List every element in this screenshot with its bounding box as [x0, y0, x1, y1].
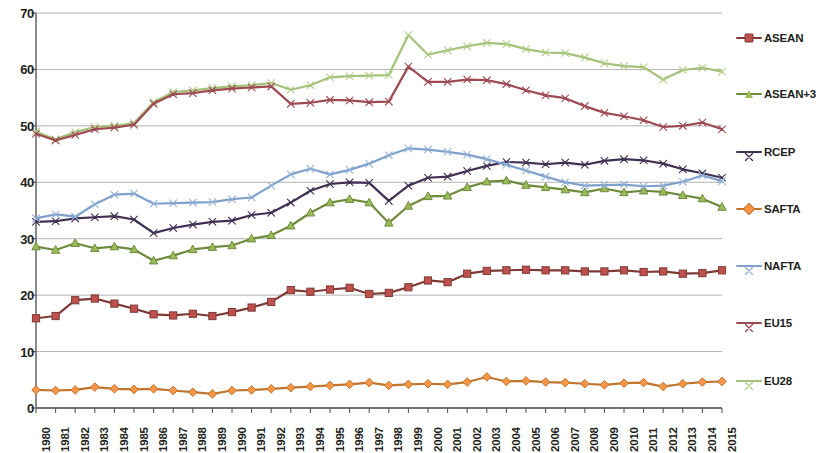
y-axis-tick-label: 20 — [4, 289, 34, 302]
plot-area — [0, 0, 740, 453]
series-safta — [32, 373, 727, 399]
data-point-marker — [170, 312, 177, 319]
data-point-marker — [111, 300, 118, 307]
data-point-marker — [698, 378, 707, 387]
legend-item-asean[interactable]: ASEAN — [736, 30, 803, 46]
data-point-marker — [561, 378, 570, 387]
data-point-marker — [268, 298, 275, 305]
data-point-marker — [424, 277, 431, 284]
y-axis-tick-labels: 706050403020100 — [0, 0, 34, 453]
data-point-marker — [444, 279, 451, 286]
legend-label: EU28 — [764, 375, 792, 387]
series-line — [36, 270, 722, 319]
data-point-marker — [385, 198, 392, 205]
data-point-marker — [326, 286, 333, 293]
legend-swatch-nafta-icon — [736, 260, 762, 272]
series-line — [36, 67, 722, 141]
legend-item-eu15[interactable]: EU15 — [736, 315, 792, 331]
data-point-marker — [365, 378, 374, 387]
data-point-marker — [581, 379, 590, 388]
data-point-marker — [620, 267, 627, 274]
data-point-marker — [503, 267, 510, 274]
data-point-marker — [169, 386, 178, 395]
data-point-marker — [679, 379, 688, 388]
data-point-marker — [228, 308, 235, 315]
data-point-marker — [208, 390, 217, 399]
data-point-marker — [659, 382, 668, 391]
data-point-marker — [130, 385, 139, 394]
data-point-marker — [71, 239, 79, 247]
data-point-marker — [366, 290, 373, 297]
chart-legend: ASEANASEAN+3RCEPSAFTANAFTAEU15EU28 — [736, 0, 812, 453]
data-point-marker — [268, 182, 275, 189]
series-markers — [32, 373, 727, 399]
legend-swatch-aseanplus3-icon — [736, 88, 762, 100]
legend-swatch-safta-icon — [736, 203, 762, 215]
data-point-marker — [345, 380, 354, 389]
data-point-marker — [385, 289, 392, 296]
data-point-marker — [130, 305, 137, 312]
y-axis-tick-label: 60 — [4, 63, 34, 76]
data-point-marker — [110, 385, 119, 394]
data-point-marker — [483, 373, 492, 382]
legend-item-nafta[interactable]: NAFTA — [736, 258, 801, 274]
data-point-marker — [718, 267, 725, 274]
axis-lines — [32, 13, 723, 413]
data-point-marker — [464, 270, 471, 277]
legend-item-eu28[interactable]: EU28 — [736, 373, 792, 389]
legend-item-rcep[interactable]: RCEP — [736, 144, 795, 160]
data-point-marker — [307, 288, 314, 295]
data-point-marker — [228, 386, 237, 395]
data-point-marker — [522, 377, 531, 386]
data-point-marker — [287, 286, 294, 293]
y-axis-tick-label: 10 — [4, 345, 34, 358]
data-point-marker — [287, 383, 296, 392]
gridlines — [36, 13, 722, 408]
data-point-marker — [581, 268, 588, 275]
data-point-marker — [660, 268, 667, 275]
data-point-marker — [483, 267, 490, 274]
data-point-marker — [443, 380, 452, 389]
y-axis-tick-label: 40 — [4, 176, 34, 189]
data-point-marker — [404, 380, 413, 389]
data-point-marker — [424, 379, 433, 388]
data-point-marker — [640, 268, 647, 275]
data-point-marker — [248, 304, 255, 311]
y-axis-tick-label: 30 — [4, 232, 34, 245]
data-point-marker — [522, 266, 529, 273]
series-asean — [32, 266, 725, 322]
legend-label: EU15 — [764, 317, 792, 329]
legend-label: SAFTA — [764, 203, 800, 215]
data-point-marker — [562, 267, 569, 274]
legend-swatch-rcep-icon — [736, 146, 762, 158]
data-point-marker — [149, 385, 158, 394]
series-line — [36, 35, 722, 139]
data-point-marker — [542, 267, 549, 274]
line-chart-svg — [0, 0, 740, 453]
data-point-marker — [267, 385, 276, 394]
y-axis-tick-label: 70 — [4, 7, 34, 20]
data-point-marker — [405, 284, 412, 291]
data-point-marker — [601, 268, 608, 275]
legend-label: NAFTA — [764, 260, 801, 272]
series-line — [36, 377, 722, 394]
data-point-marker — [600, 381, 609, 390]
data-point-marker — [150, 311, 157, 318]
data-point-marker — [385, 381, 394, 390]
data-point-marker — [346, 284, 353, 291]
legend-item-safta[interactable]: SAFTA — [736, 201, 800, 217]
data-point-marker — [326, 381, 335, 390]
data-point-marker — [189, 388, 198, 397]
data-point-marker — [72, 297, 79, 304]
data-point-marker — [71, 386, 80, 395]
legend-label: RCEP — [764, 146, 795, 158]
data-point-marker — [247, 386, 256, 395]
data-point-marker — [405, 63, 412, 70]
legend-label: ASEAN — [764, 32, 803, 44]
data-point-marker — [91, 295, 98, 302]
legend-label: ASEAN+3 — [764, 88, 816, 100]
data-point-marker — [51, 386, 60, 395]
legend-item-aseanplus3[interactable]: ASEAN+3 — [736, 86, 816, 102]
y-axis-tick-label: 0 — [4, 402, 34, 415]
